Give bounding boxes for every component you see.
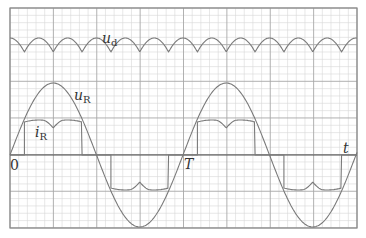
ur-label: uR <box>74 87 91 105</box>
waveform-diagram: ud uR iR 0 T t <box>0 0 366 238</box>
time-axis-label: t <box>343 140 349 156</box>
ud-label: ud <box>102 30 118 48</box>
waveform-plot: ud uR iR 0 T t <box>0 0 366 238</box>
ir-label: iR <box>35 124 47 142</box>
period-label: T <box>184 156 195 172</box>
origin-label: 0 <box>10 157 19 173</box>
